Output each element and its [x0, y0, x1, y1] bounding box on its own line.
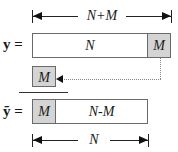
arrow-left-icon	[33, 136, 42, 144]
y-tilde-symbol: ỹ =	[3, 104, 23, 119]
arrow-left-icon	[33, 12, 42, 20]
bottom-dim-right-tick	[148, 134, 149, 147]
moved-m-block: M	[32, 66, 56, 87]
arrow-right-icon	[162, 12, 171, 20]
separator-line	[19, 92, 68, 93]
top-dim-label: N+M	[78, 9, 126, 23]
y-segment-m-label: M	[148, 39, 170, 53]
dotted-connector-vertical	[160, 58, 161, 79]
bottom-dim-label: N	[78, 133, 110, 147]
moved-m-label: M	[33, 71, 55, 85]
y-tilde-segment-m-label: M	[33, 105, 55, 119]
y-tilde-segment-n-minus-m: N-M	[55, 99, 148, 124]
y-segment-n-label: N	[33, 39, 147, 53]
y-segment-m: M	[147, 33, 171, 58]
y-tilde-segment-n-minus-m-label: N-M	[56, 105, 147, 119]
connector-arrow-icon	[56, 75, 63, 83]
arrow-right-icon	[139, 136, 148, 144]
dotted-connector-horizontal	[62, 79, 161, 80]
top-dim-right-tick	[171, 10, 172, 23]
y-tilde-segment-m: M	[32, 99, 56, 124]
y-segment-n: N	[32, 33, 148, 58]
y-symbol: y =	[3, 37, 23, 52]
